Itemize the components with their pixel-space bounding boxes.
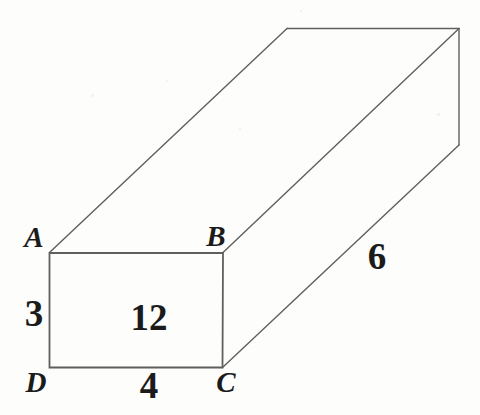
vertex-label-c: C bbox=[216, 368, 235, 397]
vertex-label-a: A bbox=[24, 223, 43, 252]
prism-drawing bbox=[0, 0, 480, 415]
dimension-label-width: 4 bbox=[140, 367, 159, 404]
prism-figure: A B C D 3 12 4 6 bbox=[0, 0, 480, 415]
prism-edge-from-c bbox=[223, 145, 460, 368]
scan-speckle bbox=[300, 10, 302, 12]
vertex-label-d: D bbox=[26, 368, 47, 397]
prism-edges bbox=[50, 29, 460, 368]
scan-speckle bbox=[91, 94, 94, 97]
scan-speckle bbox=[437, 113, 440, 116]
dimension-label-front-face-value: 12 bbox=[131, 299, 168, 336]
vertex-label-b: B bbox=[206, 222, 225, 251]
scan-speckle bbox=[166, 80, 168, 82]
scan-speckle bbox=[239, 128, 241, 130]
dimension-label-height: 3 bbox=[25, 295, 44, 332]
dimension-label-depth: 6 bbox=[368, 238, 387, 275]
prism-edge-from-a bbox=[50, 29, 288, 253]
prism-edge-from-b bbox=[223, 29, 459, 253]
